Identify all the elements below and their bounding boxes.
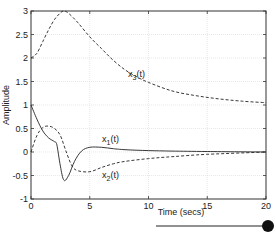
y-tick-label: 2.5 [15,30,28,40]
y-tick-label: 1 [23,100,28,110]
y-tick-label: -1 [20,194,28,204]
x2-label: x2(t) [102,170,119,182]
series-x3t-line [31,11,266,103]
y-tick-label: -0.5 [12,171,28,181]
x-tick-label: 20 [261,201,271,211]
time-slider[interactable] [156,220,274,232]
x3-label: x3(t) [128,69,145,81]
y-tick-label: 1.5 [15,77,28,87]
y-axis-label: Amplitude [1,85,11,125]
x-tick-label: 5 [87,201,92,211]
x1-label: x1(t) [102,134,119,146]
x-tick-label: 10 [143,201,153,211]
y-tick-label: 2 [23,53,28,63]
x-tick-label: 0 [28,201,33,211]
response-plot: 05101520-1-0.500.511.522.53 Amplitude Ti… [0,0,276,232]
axis-ticks: 05101520-1-0.500.511.522.53 [12,6,271,211]
x-axis-label: Time (secs) [158,207,205,217]
slider-handle[interactable] [262,220,274,232]
y-tick-label: 3 [23,6,28,16]
y-tick-label: 0 [23,147,28,157]
grid-lines [31,11,266,199]
y-tick-label: 0.5 [15,124,28,134]
